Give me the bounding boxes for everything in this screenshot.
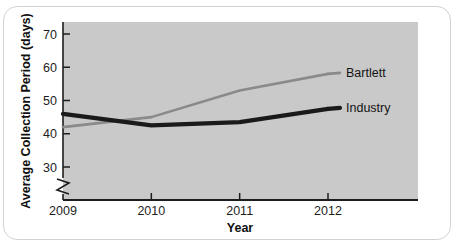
y-tick-label: 70: [43, 28, 57, 42]
series-leader-industry: [328, 108, 340, 109]
y-tick-label: 30: [43, 161, 57, 175]
y-tick-label: 40: [43, 127, 57, 141]
y-axis-title: Average Collection Period (days): [19, 13, 33, 208]
series-label-industry: Industry: [346, 101, 391, 115]
x-tick-label: 2009: [49, 204, 77, 218]
x-axis-title: Year: [227, 221, 254, 235]
line-chart: BartlettIndustry 30405060702009201020112…: [0, 0, 458, 249]
x-tick-label: 2012: [314, 204, 342, 218]
chart-canvas: BartlettIndustry 30405060702009201020112…: [0, 0, 458, 249]
series-label-bartlett: Bartlett: [346, 66, 386, 80]
x-tick-label: 2010: [137, 204, 165, 218]
x-tick-label: 2011: [226, 204, 253, 218]
y-tick-label: 50: [43, 94, 57, 108]
series-leader-bartlett: [328, 73, 340, 74]
y-tick-label: 60: [43, 61, 57, 75]
